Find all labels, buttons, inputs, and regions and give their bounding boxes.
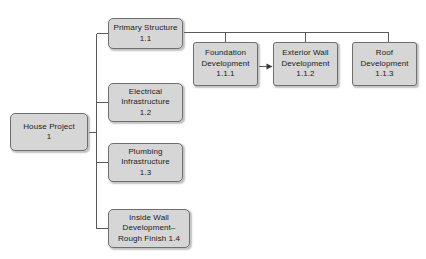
node-electrical-infrastructure[interactable]: Electrical Infrastructure 1.2: [108, 83, 183, 122]
node-electrical-infrastructure-line2: Infrastructure: [121, 97, 170, 108]
node-primary-structure-line1: Primary Structure: [114, 23, 178, 34]
node-primary-structure-line2: 1.1: [140, 34, 151, 45]
node-house-project-line2: 1: [47, 132, 52, 143]
node-electrical-infrastructure-line3: 1.2: [140, 108, 151, 119]
node-roof-development[interactable]: Roof Development 1.1.3: [352, 42, 417, 86]
node-plumbing-infrastructure-line3: 1.3: [140, 168, 151, 179]
node-foundation-development-line1: Foundation: [205, 48, 246, 59]
node-exterior-wall-development-line3: 1.1.2: [296, 69, 314, 80]
node-inside-wall-development-line1: Inside Wall: [129, 213, 169, 224]
node-exterior-wall-development-line1: Exterior Wall: [282, 48, 328, 59]
node-foundation-development-line3: 1.1.1: [216, 69, 234, 80]
node-foundation-development-line2: Development: [201, 59, 249, 70]
node-plumbing-infrastructure-line2: Infrastructure: [121, 157, 170, 168]
node-inside-wall-development[interactable]: Inside Wall Development– Rough Finish 1.…: [108, 209, 190, 248]
node-plumbing-infrastructure[interactable]: Plumbing Infrastructure 1.3: [108, 143, 183, 182]
node-electrical-infrastructure-line1: Electrical: [129, 87, 162, 98]
node-roof-development-line1: Roof: [376, 48, 393, 59]
sequence-arrow-head: [267, 64, 273, 70]
node-exterior-wall-development[interactable]: Exterior Wall Development 1.1.2: [273, 42, 338, 86]
node-roof-development-line3: 1.1.3: [375, 69, 393, 80]
node-roof-development-line2: Development: [360, 59, 408, 70]
node-house-project-line1: House Project: [23, 122, 75, 133]
node-plumbing-infrastructure-line1: Plumbing: [128, 147, 162, 158]
node-inside-wall-development-line2: Development–: [123, 223, 176, 234]
node-exterior-wall-development-line2: Development: [281, 59, 329, 70]
node-foundation-development[interactable]: Foundation Development 1.1.1: [193, 42, 258, 86]
node-inside-wall-development-line3: Rough Finish 1.4: [118, 234, 180, 245]
node-primary-structure[interactable]: Primary Structure 1.1: [108, 18, 183, 49]
wbs-diagram-canvas: House Project 1 Primary Structure 1.1 El…: [0, 0, 426, 259]
node-house-project[interactable]: House Project 1: [10, 113, 88, 151]
